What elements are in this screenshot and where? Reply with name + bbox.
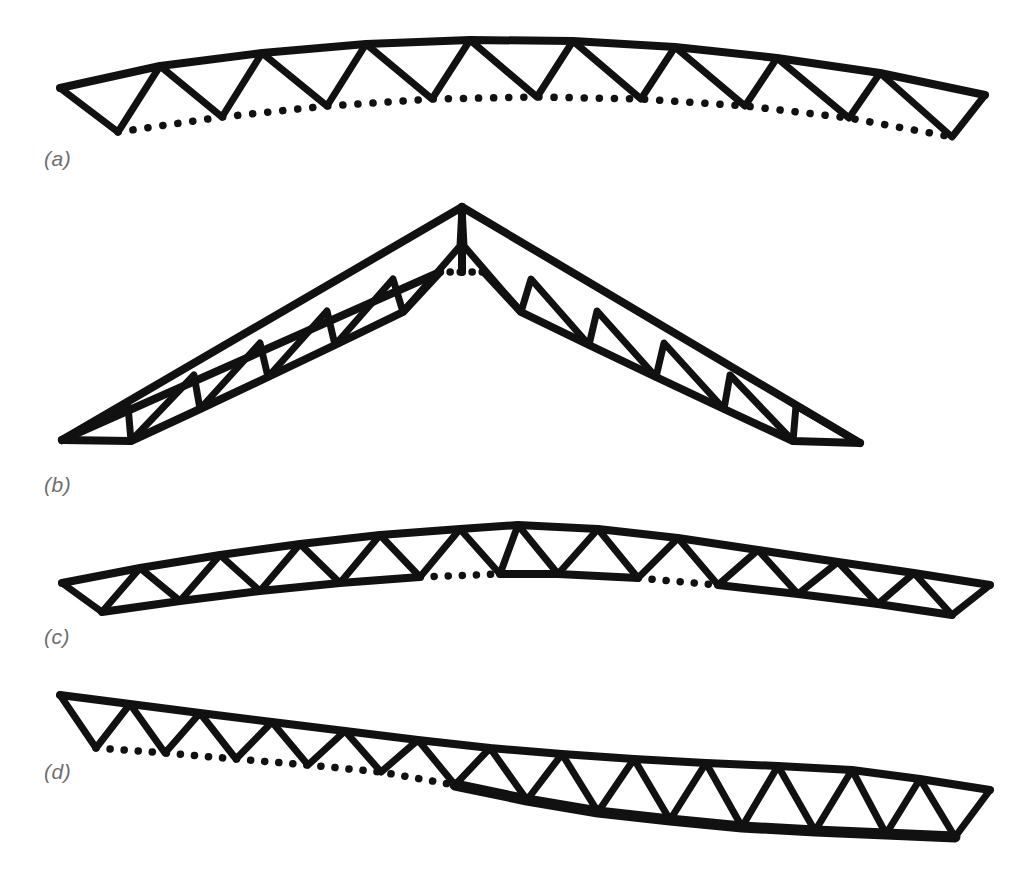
figure-label-a: (a) [44, 147, 71, 171]
truss-figure: (a) (b) (c) (d) [0, 0, 1030, 885]
truss-diagram-canvas [0, 0, 1030, 885]
figure-label-d: (d) [44, 760, 71, 784]
figure-label-c: (c) [44, 625, 70, 649]
truss-c-bottom-chord-dotted-1 [420, 574, 500, 577]
figure-label-b: (b) [44, 473, 71, 497]
truss-c-bottom-chord-solid-mid [500, 574, 638, 578]
